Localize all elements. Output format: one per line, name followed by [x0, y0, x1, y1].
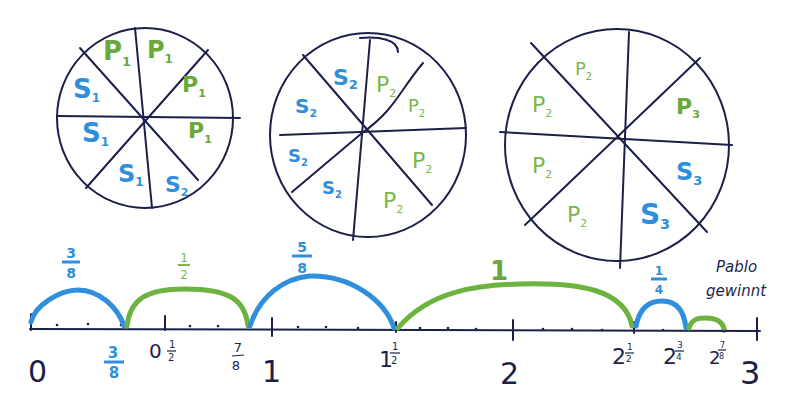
tick-label-0-1-2: 0 1 2 — [149, 339, 176, 363]
label-s3-b: S3 — [640, 198, 670, 232]
label-c3-p2-d: P2 — [567, 202, 587, 230]
tick-label-1-1-2: 1 1 2 — [379, 341, 400, 372]
svg-text:2: 2 — [612, 344, 626, 369]
jump-label-1-2: 1 2 — [178, 251, 190, 282]
svg-text:8: 8 — [109, 364, 119, 382]
label-p2-b: P2 — [408, 95, 425, 119]
svg-text:4: 4 — [655, 283, 663, 297]
svg-text:3: 3 — [677, 340, 683, 350]
tick-label-3: 3 — [740, 354, 760, 392]
svg-text:2: 2 — [391, 355, 397, 366]
svg-text:5: 5 — [297, 239, 307, 255]
svg-text:2: 2 — [663, 344, 677, 369]
svg-text:8: 8 — [66, 265, 76, 281]
label-s3-a: S3 — [676, 158, 702, 188]
svg-text:1: 1 — [655, 264, 663, 278]
svg-text:1: 1 — [180, 251, 188, 265]
label-s2: S2 — [165, 172, 189, 199]
label-s1-c: S1 — [118, 160, 144, 189]
pie-circle-1: P1 P1 P1 P1 S1 S1 S1 S2 — [57, 28, 240, 208]
svg-text:2: 2 — [180, 268, 188, 282]
svg-text:gewinnt: gewinnt — [706, 282, 767, 300]
tick-label-2-3-4: 2 3 4 — [663, 340, 684, 369]
tick-label-2-1-2: 2 1 2 — [612, 342, 634, 369]
label-s2-d: S2 — [322, 177, 342, 200]
tick-label-2: 2 — [500, 356, 519, 391]
fraction-game-diagram: P1 P1 P1 P1 S1 S1 S1 S2 S2 S2 S2 S2 P2 P… — [0, 0, 810, 408]
svg-text:1: 1 — [627, 342, 633, 352]
tick-label-1: 1 — [262, 354, 281, 389]
label-c3-p2-c: P2 — [532, 153, 552, 181]
svg-text:2: 2 — [168, 352, 174, 363]
label-s1-b: S1 — [82, 118, 109, 149]
svg-text:4: 4 — [676, 352, 682, 362]
label-s2-a: S2 — [333, 65, 358, 92]
svg-text:3: 3 — [66, 245, 76, 261]
jump-pablo-1-2 — [127, 289, 248, 326]
svg-text:7: 7 — [720, 341, 725, 350]
jump-pablo-1-8 — [689, 318, 724, 328]
label-s1-a: S1 — [73, 74, 100, 105]
svg-text:1: 1 — [392, 341, 398, 352]
label-s2-b: S2 — [295, 94, 317, 120]
pie-circle-3: P2 P2 P2 P2 P3 S3 S3 — [500, 29, 732, 268]
svg-text:8: 8 — [297, 260, 307, 276]
label-p2-a: P2 — [376, 72, 396, 100]
svg-text:0: 0 — [149, 339, 162, 363]
svg-text:8: 8 — [719, 352, 724, 361]
jump-label-5-8: 5 8 — [292, 239, 312, 276]
jump-sebastian-3-8 — [31, 290, 124, 326]
tick-label-0: 0 — [28, 354, 47, 389]
svg-text:1: 1 — [169, 339, 175, 350]
label-c3-p2-b: P2 — [532, 92, 552, 120]
jump-sebastian-1-4 — [636, 301, 686, 328]
label-p1-b: P1 — [147, 36, 173, 66]
svg-text:2: 2 — [626, 354, 632, 364]
label-c3-p2-a: P2 — [575, 58, 592, 82]
tick-label-3-8: 3 8 — [104, 344, 124, 382]
winner-note: Pablo gewinnt — [706, 258, 767, 300]
svg-text:7: 7 — [234, 340, 242, 355]
label-p3: P3 — [676, 94, 700, 121]
jump-label-3-8: 3 8 — [62, 245, 80, 281]
label-s2-c: S2 — [288, 145, 308, 168]
label-p1-d: P1 — [188, 118, 212, 146]
label-p2-c: P2 — [412, 148, 432, 176]
jump-pablo-1 — [398, 284, 632, 328]
label-p1-a: P1 — [103, 36, 131, 69]
svg-text:8: 8 — [232, 358, 240, 373]
svg-text:3: 3 — [108, 344, 118, 362]
pie-circle-2: S2 S2 S2 S2 P2 P2 P2 P2 — [270, 33, 466, 240]
tick-label-7-8: 7 8 — [232, 340, 244, 373]
jump-label-1: 1 — [490, 256, 508, 286]
svg-text:Pablo: Pablo — [716, 258, 757, 276]
label-p1-c: P1 — [182, 72, 206, 100]
jump-label-1-4: 1 4 — [651, 264, 667, 297]
tick-label-2-7-8: 2 7 8 — [709, 341, 726, 368]
label-p2-d: P2 — [383, 188, 403, 216]
